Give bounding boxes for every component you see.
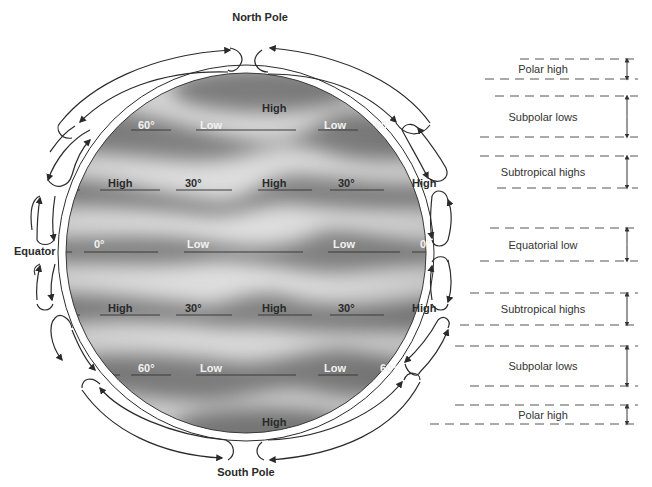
- pressure-belt-label: Polar high: [518, 409, 568, 421]
- pressure-label: 30°: [338, 302, 355, 314]
- north-pole-label: North Pole: [232, 11, 288, 23]
- south-pole-label: South Pole: [217, 466, 274, 478]
- pressure-belt: Subpolar lows: [480, 96, 638, 137]
- pressure-belt-label: Subtropical highs: [501, 166, 586, 178]
- pressure-belt: Subtropical highs: [480, 156, 638, 188]
- pressure-label: 30°: [185, 302, 202, 314]
- pressure-belt: Equatorial low: [480, 228, 638, 261]
- pressure-label: 30°: [338, 177, 355, 189]
- pressure-belt-label: Polar high: [518, 63, 568, 75]
- pressure-belt: Subpolar lows: [455, 346, 638, 386]
- pressure-label: Low: [324, 362, 346, 374]
- pressure-label: Low: [324, 119, 346, 131]
- pressure-label: High: [108, 177, 133, 189]
- pressure-belt-label: Equatorial low: [508, 239, 577, 251]
- pressure-label: High: [108, 302, 133, 314]
- pressure-label: High: [262, 177, 287, 189]
- pressure-label: High: [262, 416, 287, 428]
- equator-label: Equator: [14, 245, 56, 257]
- pressure-label: Low: [200, 119, 222, 131]
- pressure-label: 0°: [94, 238, 105, 250]
- pressure-label: 60°: [380, 362, 397, 374]
- pressure-label: High: [262, 302, 287, 314]
- pressure-belt: Polar high: [485, 59, 638, 79]
- pressure-belt: Polar high: [430, 405, 638, 424]
- pressure-label: 30°: [185, 177, 202, 189]
- pressure-belt: Subtropical highs: [460, 293, 638, 325]
- pressure-label: 0°: [420, 238, 431, 250]
- pressure-label: Low: [200, 362, 222, 374]
- pressure-belt-label: Subpolar lows: [508, 360, 578, 372]
- pressure-label: High: [412, 177, 437, 189]
- pressure-label: High: [262, 102, 287, 114]
- pressure-label: Low: [333, 238, 355, 250]
- pressure-belt-label: Subpolar lows: [508, 111, 578, 123]
- pressure-belts-legend: Polar highSubpolar lowsSubtropical highs…: [430, 59, 638, 424]
- global-pressure-belts-diagram: High60°LowLow60°High30°High30°High0°LowL…: [0, 0, 652, 487]
- pressure-label: 60°: [138, 362, 155, 374]
- pressure-label: Low: [187, 238, 209, 250]
- pressure-label: 60°: [138, 119, 155, 131]
- pressure-label: 60°: [375, 119, 392, 131]
- pressure-label: High: [412, 302, 437, 314]
- pressure-belt-label: Subtropical highs: [501, 303, 586, 315]
